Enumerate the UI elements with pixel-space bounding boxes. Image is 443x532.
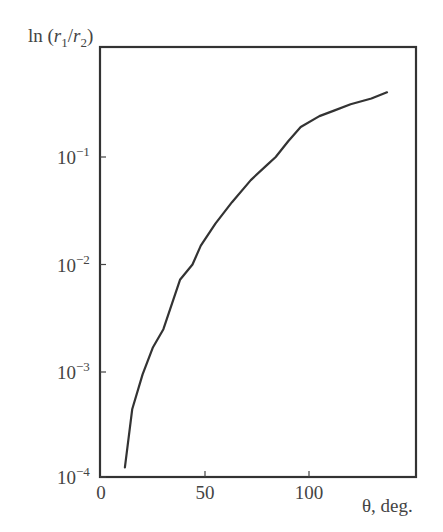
x-tick-label: 0 <box>96 482 106 503</box>
x-tick-label: 100 <box>295 482 324 503</box>
x-ticks: 050100 <box>96 471 323 503</box>
y-tick-label: 10−3 <box>57 359 90 383</box>
svg-text:ln (r1/r2): ln (r1/r2) <box>28 25 93 50</box>
y-tick-label: 10−2 <box>57 252 90 276</box>
plot-frame <box>100 47 416 477</box>
data-curve <box>125 92 387 467</box>
y-axis-label: ln (r1/r2) <box>28 25 93 50</box>
y-tick-label: 10−1 <box>57 144 90 168</box>
x-tick-label: 50 <box>196 482 215 503</box>
y-ticks: 10−410−310−210−1 <box>57 144 106 488</box>
y-tick-label: 10−4 <box>57 464 90 488</box>
x-axis-label: θ, deg. <box>362 495 413 516</box>
chart-figure: ln (r1/r2) 10−410−310−210−1 050100 θ, de… <box>0 0 443 532</box>
